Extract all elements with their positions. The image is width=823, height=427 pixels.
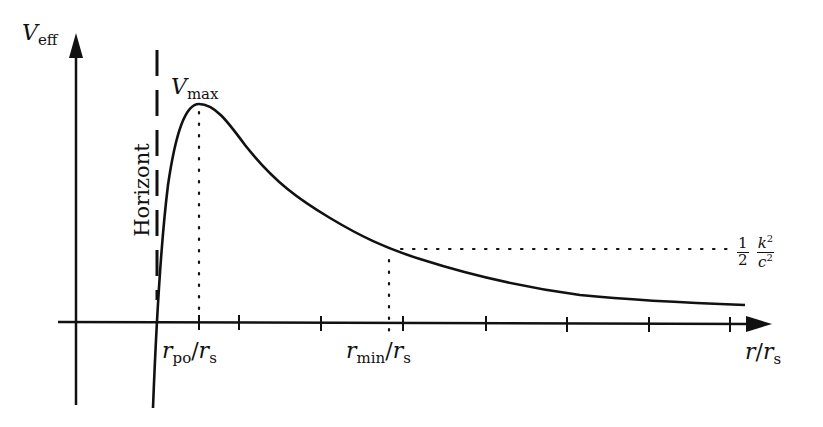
level-num-k: k <box>758 234 767 252</box>
x-axis-label-rs-sub: s <box>773 350 781 368</box>
vmax-label-main: V <box>171 74 187 99</box>
rmin-den-sub: s <box>403 349 411 367</box>
level-label: 1 2 k2 c2 <box>737 234 774 271</box>
rmin-sub: min <box>357 349 386 367</box>
potential-curve <box>153 104 745 408</box>
x-axis-label-slash: / <box>756 339 763 364</box>
level-coef-fraction: 1 2 <box>737 236 749 269</box>
rpo-den: r <box>199 338 210 363</box>
x-axis-label: r/rs <box>745 341 781 367</box>
rpo-main: r <box>162 338 173 363</box>
horizon-label: Horizont <box>130 143 154 236</box>
rmin-main: r <box>346 338 357 363</box>
rmin-slash: / <box>385 338 392 363</box>
level-num: k2 <box>757 234 774 253</box>
rpo-tick-label: rpo/rs <box>162 340 217 366</box>
rpo-sub: po <box>173 349 192 367</box>
y-axis-label: Veff <box>22 22 57 48</box>
vmax-label: Vmax <box>171 76 219 102</box>
vmax-label-sub: max <box>187 85 219 103</box>
x-axis-label-r: r <box>745 339 756 364</box>
rpo-slash: / <box>191 338 198 363</box>
y-axis-label-main: V <box>22 20 38 45</box>
rmin-den: r <box>393 338 404 363</box>
x-axis-arrow-icon <box>746 316 772 332</box>
level-den: c2 <box>757 253 774 271</box>
level-den-sup: 2 <box>766 252 772 263</box>
y-axis-arrow-icon <box>69 33 83 58</box>
y-axis-label-sub: eff <box>38 31 58 49</box>
level-coef-den: 2 <box>737 253 749 269</box>
effective-potential-diagram <box>0 0 823 427</box>
x-axis-label-rs: r <box>763 339 774 364</box>
rpo-den-sub: s <box>209 349 217 367</box>
level-main-fraction: k2 c2 <box>757 234 774 271</box>
rmin-tick-label: rmin/rs <box>346 340 411 366</box>
level-num-sup: 2 <box>767 233 773 244</box>
